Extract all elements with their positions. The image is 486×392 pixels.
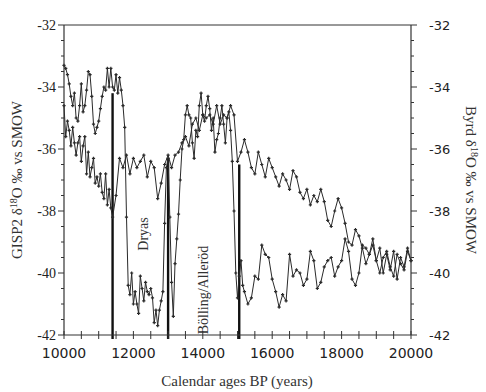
data-point-marker [128,172,131,175]
data-point-marker [203,120,206,123]
data-point-marker [371,237,374,240]
data-point-marker [83,135,86,138]
data-point-marker [144,281,147,284]
data-point-marker [149,287,152,290]
data-point-marker [101,95,104,98]
data-point-marker [309,203,312,206]
data-point-marker [75,154,78,157]
data-point-marker [193,157,196,160]
data-point-marker [333,209,336,212]
data-point-marker [312,259,315,262]
data-point-marker [239,151,242,154]
data-point-marker [68,82,71,85]
data-point-marker [399,256,402,259]
data-point-marker [66,73,69,76]
data-point-marker [76,141,79,144]
data-point-marker [267,157,270,160]
data-point-marker [64,135,67,138]
data-point-marker [205,104,208,107]
data-point-marker [337,197,340,200]
data-point-marker [97,185,100,188]
data-point-marker [260,163,263,166]
data-point-marker [158,309,161,312]
data-point-marker [222,123,225,126]
data-point-marker [288,253,291,256]
data-point-marker [140,287,143,290]
data-point-marker [118,76,121,79]
series-layer [62,64,412,328]
left-tick-label: -34 [37,80,56,95]
y-axis-title-right: Byrd δ18O ‰ vs SMOW [463,106,481,255]
data-point-marker [104,172,107,175]
data-point-marker [229,129,232,132]
data-point-marker [130,271,133,274]
data-point-marker [68,129,71,132]
bottom-tick-label: 14000 [181,345,226,361]
data-point-marker [210,129,213,132]
data-point-marker [199,92,202,95]
data-point-marker [153,321,156,324]
data-point-marker [305,188,308,191]
data-point-marker [80,82,83,85]
data-point-marker [123,126,126,129]
data-point-marker [213,151,216,154]
data-point-marker [378,271,381,274]
chart-canvas: -32-32-34-34-36-36-38-38-40-40-42-421000… [0,0,486,392]
data-point-marker [118,157,121,160]
data-point-marker [69,95,72,98]
data-point-marker [177,213,180,216]
data-point-marker [156,324,159,327]
data-point-marker [234,271,237,274]
data-point-marker [340,206,343,209]
data-point-marker [172,315,175,318]
data-point-marker [125,216,128,219]
data-point-marker [343,237,346,240]
data-point-marker [127,284,130,287]
data-point-marker [163,222,166,225]
data-point-marker [217,132,220,135]
data-point-marker [361,247,364,250]
data-point-marker [94,182,97,185]
data-point-marker [175,237,178,240]
data-point-marker [236,160,239,163]
data-point-marker [151,296,154,299]
annotation-bolling-allerod: Bölling/Alleröd [196,246,211,335]
data-point-marker [106,67,109,70]
data-point-marker [85,172,88,175]
bottom-tick-label: 16000 [250,345,295,361]
data-point-marker [108,188,111,191]
left-tick-label: -36 [37,142,56,157]
data-point-marker [88,175,91,178]
annotation-dryas: Dryas [136,217,151,250]
data-point-marker [274,290,277,293]
right-tick-label: -40 [429,266,450,281]
left-tick-label: -42 [37,328,56,343]
data-point-marker [90,95,93,98]
data-point-marker [260,244,263,247]
right-tick-label: -34 [429,80,450,95]
data-point-marker [108,85,111,88]
data-point-marker [288,188,291,191]
data-point-marker [163,163,166,166]
data-point-marker [167,154,170,157]
bottom-tick-label: 10000 [42,345,87,361]
data-point-marker [114,194,117,197]
data-point-marker [323,200,326,203]
data-point-marker [78,135,81,138]
data-point-marker [156,197,159,200]
data-point-marker [364,262,367,265]
data-point-marker [220,104,223,107]
data-point-marker [102,197,105,200]
data-point-marker [99,107,102,110]
data-point-marker [87,151,90,154]
data-point-marker [73,141,76,144]
data-point-marker [215,138,218,141]
data-point-marker [146,175,149,178]
data-point-marker [137,312,140,315]
data-point-marker [114,73,117,76]
data-point-marker [170,281,173,284]
data-point-marker [241,284,244,287]
data-point-marker [109,67,112,70]
data-point-marker [90,166,93,169]
data-point-marker [83,104,86,107]
